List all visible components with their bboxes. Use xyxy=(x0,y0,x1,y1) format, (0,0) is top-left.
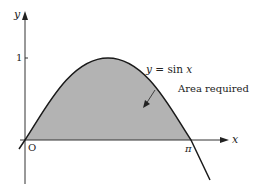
y-axis-label: y xyxy=(13,8,21,21)
curve-label-x: x xyxy=(186,63,192,75)
origin-label: O xyxy=(28,142,36,153)
curve-label: y = sin x xyxy=(145,63,192,75)
curve-label-eq: = sin xyxy=(152,63,186,75)
y-tick-label-1: 1 xyxy=(16,52,22,63)
sine-area-diagram: y x 1 O π y = sin x Area required xyxy=(0,0,254,184)
area-label: Area required xyxy=(177,83,249,94)
y-axis-arrow-icon xyxy=(22,11,28,20)
x-tick-label-pi: π xyxy=(184,143,192,154)
x-axis-label: x xyxy=(232,133,239,146)
x-axis-arrow-icon xyxy=(220,137,229,143)
